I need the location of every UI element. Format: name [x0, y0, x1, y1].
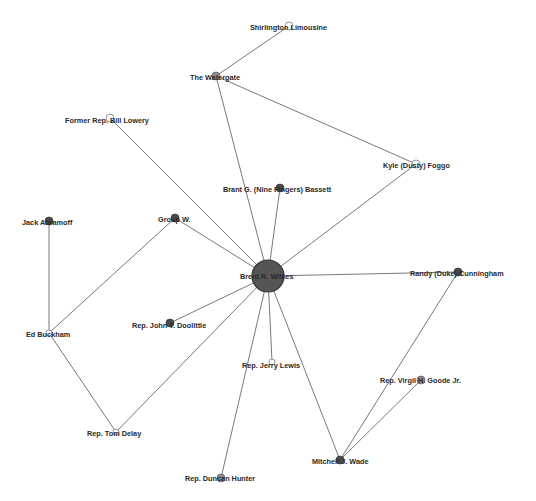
- edge-cunningham-wade: [340, 272, 458, 460]
- edge-watergate-foggo: [216, 76, 416, 164]
- edge-buckham-delay: [49, 333, 116, 432]
- edge-watergate-wilkes: [216, 76, 268, 276]
- node-label-foggo: Kyle (Dusty) Foggo: [383, 161, 450, 170]
- node-label-buckham: Ed Buckham: [26, 330, 71, 339]
- nodes-layer: [45, 22, 462, 482]
- node-label-delay: Rep. Tom Delay: [87, 429, 142, 438]
- node-label-groupw: Group W.: [158, 215, 190, 224]
- node-label-abramoff: Jack Abramoff: [22, 218, 73, 227]
- node-label-lewis: Rep. Jerry Lewis: [242, 361, 300, 370]
- node-label-shirlington: Shirlington Limousine: [250, 23, 327, 32]
- edge-lowery-wilkes: [110, 118, 268, 276]
- network-graph: Brent R. WilkesShirlington LimousineThe …: [0, 0, 536, 501]
- edges-layer: [49, 26, 458, 478]
- edge-hunter-wilkes: [221, 276, 268, 478]
- node-label-goode: Rep. Virgil H. Goode Jr.: [380, 376, 461, 385]
- edge-delay-wilkes: [116, 276, 268, 432]
- edge-goode-wade: [340, 380, 421, 460]
- node-label-bassett: Brant G. (Nine Fingers) Bassett: [223, 185, 332, 194]
- node-label-wilkes: Brent R. Wilkes: [240, 272, 293, 281]
- edge-groupw-buckham: [49, 218, 175, 333]
- node-label-wade: Mitchell J. Wade: [312, 457, 369, 466]
- node-label-hunter: Rep. Duncan Hunter: [185, 474, 255, 483]
- node-label-cunningham: Randy (Duke) Cunningham: [410, 269, 504, 278]
- edge-foggo-wilkes: [268, 164, 416, 276]
- node-label-doolittle: Rep. John T. Doolittle: [132, 321, 206, 330]
- node-label-watergate: The Watergate: [190, 73, 240, 82]
- edge-shirlington-watergate: [216, 26, 289, 76]
- labels-layer: Brent R. WilkesShirlington LimousineThe …: [22, 23, 504, 483]
- node-label-lowery: Former Rep. Bill Lowery: [65, 116, 150, 125]
